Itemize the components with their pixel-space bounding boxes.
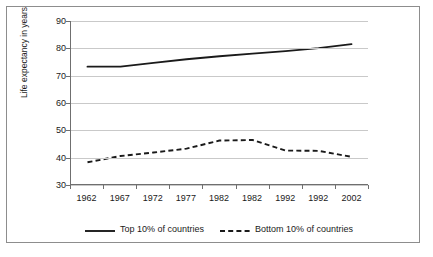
- gridline: [71, 21, 368, 22]
- y-axis-tick-label: 50: [44, 126, 66, 135]
- y-axis-tick-label: 40: [44, 154, 66, 163]
- y-axis-tick-mark: [66, 130, 70, 131]
- legend-label-bottom-10-percent: Bottom 10% of countries: [255, 224, 353, 234]
- y-axis-tick-labels: 30405060708090: [40, 21, 66, 185]
- chart-figure: Life expectancy in years 30405060708090 …: [0, 0, 433, 257]
- x-axis-tick-labels: 196219671972197719821982199219922002: [70, 193, 368, 205]
- y-axis-tick-label: 60: [44, 99, 66, 108]
- gridline: [71, 76, 368, 77]
- y-axis-tick-mark: [66, 76, 70, 77]
- x-axis-tick-mark: [335, 185, 336, 189]
- y-axis-tick-label: 80: [44, 44, 66, 53]
- x-axis-tick-mark: [70, 185, 71, 189]
- y-axis-tick-mark: [66, 21, 70, 22]
- gridline: [71, 103, 368, 104]
- chart-legend: Top 10% of countries Bottom 10% of count…: [70, 222, 368, 236]
- x-axis-tick-mark: [302, 185, 303, 189]
- x-axis-tick-mark: [368, 185, 369, 189]
- x-axis-tick-mark: [103, 185, 104, 189]
- x-axis-tick-label: 2002: [331, 193, 371, 203]
- gridline: [71, 158, 368, 159]
- legend-label-top-10-percent: Top 10% of countries: [120, 224, 204, 234]
- x-axis-tick-mark: [236, 185, 237, 189]
- series-line-bottom-10-percent: [88, 140, 352, 162]
- x-axis-tick-mark: [269, 185, 270, 189]
- gridline: [71, 48, 368, 49]
- x-axis-tick-mark: [202, 185, 203, 189]
- y-axis-tick-mark: [66, 103, 70, 104]
- y-axis-tick-label: 30: [44, 181, 66, 190]
- plot-area: [70, 21, 368, 185]
- legend-entry-top-10-percent: Top 10% of countries: [85, 224, 204, 234]
- y-axis-tick-label: 70: [44, 72, 66, 81]
- y-axis-title: Life expectancy in years: [20, 0, 29, 113]
- y-axis-tick-mark: [66, 48, 70, 49]
- x-axis-tick-mark: [169, 185, 170, 189]
- legend-swatch-solid-icon: [85, 226, 115, 232]
- gridline: [71, 130, 368, 131]
- legend-entry-bottom-10-percent: Bottom 10% of countries: [220, 224, 353, 234]
- x-axis-tick-mark: [136, 185, 137, 189]
- legend-swatch-dashed-icon: [220, 226, 250, 232]
- gridline: [71, 185, 368, 186]
- y-axis-tick-mark: [66, 158, 70, 159]
- y-axis-tick-label: 90: [44, 17, 66, 26]
